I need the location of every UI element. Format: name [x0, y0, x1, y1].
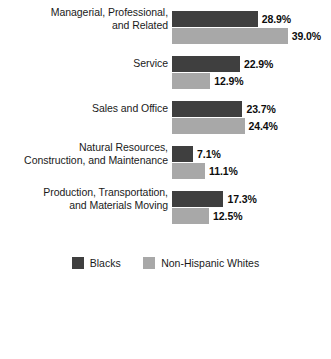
bar-blacks — [172, 11, 258, 27]
legend-swatch-icon — [143, 257, 155, 269]
bar-value-label: 23.7% — [242, 101, 275, 117]
legend-label: Non-Hispanic Whites — [161, 257, 259, 269]
bar-blacks — [172, 56, 240, 72]
category-label: Service — [0, 51, 168, 70]
bar-value-label: 24.4% — [245, 118, 278, 134]
bar-non-hispanic-whites — [172, 163, 205, 179]
bar-non-hispanic-whites — [172, 118, 245, 134]
bar-non-hispanic-whites — [172, 28, 288, 44]
bar-row-blacks: 7.1% — [172, 146, 238, 163]
bar-value-label: 17.3% — [223, 191, 256, 207]
bar-row-whites: 39.0% — [172, 28, 321, 45]
bar-value-label: 12.9% — [210, 73, 243, 89]
legend-item-non-hispanic-whites: Non-Hispanic Whites — [143, 253, 259, 271]
bar-row-blacks: 28.9% — [172, 11, 321, 28]
bar-pair: 17.3% 12.5% — [172, 191, 257, 225]
bar-blacks — [172, 191, 223, 207]
chart-legend: Blacks Non-Hispanic Whites — [0, 252, 331, 271]
bar-row-blacks: 17.3% — [172, 191, 257, 208]
bar-group: Production, Transportation, and Material… — [0, 186, 331, 231]
bar-non-hispanic-whites — [172, 208, 209, 224]
occupation-distribution-bar-chart: Managerial, Professional, and Related 28… — [0, 0, 331, 359]
bar-group: Natural Resources, Construction, and Mai… — [0, 141, 331, 186]
bar-value-label: 39.0% — [288, 28, 321, 44]
bar-non-hispanic-whites — [172, 73, 210, 89]
category-label: Natural Resources, Construction, and Mai… — [0, 141, 168, 166]
category-label: Managerial, Professional, and Related — [0, 6, 168, 31]
bar-value-label: 11.1% — [205, 163, 238, 179]
bar-value-label: 7.1% — [193, 146, 221, 162]
bar-row-whites: 11.1% — [172, 163, 238, 180]
bar-pair: 7.1% 11.1% — [172, 146, 238, 180]
bar-value-label: 22.9% — [240, 56, 273, 72]
bar-blacks — [172, 146, 193, 162]
bar-pair: 22.9% 12.9% — [172, 56, 273, 90]
bar-group: Service 22.9% 12.9% — [0, 51, 331, 96]
plot-area: Managerial, Professional, and Related 28… — [0, 6, 331, 231]
bar-pair: 23.7% 24.4% — [172, 101, 278, 135]
bar-group: Managerial, Professional, and Related 28… — [0, 6, 331, 51]
bar-row-whites: 12.9% — [172, 73, 273, 90]
category-label: Production, Transportation, and Material… — [0, 186, 168, 211]
category-label: Sales and Office — [0, 96, 168, 115]
bar-pair: 28.9% 39.0% — [172, 11, 321, 45]
bar-row-blacks: 23.7% — [172, 101, 278, 118]
bar-value-label: 28.9% — [258, 11, 291, 27]
bar-group: Sales and Office 23.7% 24.4% — [0, 96, 331, 141]
bar-row-whites: 12.5% — [172, 208, 257, 225]
legend-item-blacks: Blacks — [72, 253, 121, 271]
bar-value-label: 12.5% — [209, 208, 242, 224]
bar-row-blacks: 22.9% — [172, 56, 273, 73]
legend-swatch-icon — [72, 257, 84, 269]
bar-blacks — [172, 101, 242, 117]
legend-label: Blacks — [90, 257, 121, 269]
bar-row-whites: 24.4% — [172, 118, 278, 135]
